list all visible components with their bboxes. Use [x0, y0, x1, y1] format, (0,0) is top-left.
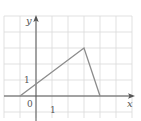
x-tick-label-1: 1: [50, 105, 56, 115]
graph-line: [20, 48, 100, 96]
coordinate-graph: y x 0 1 1: [0, 0, 141, 121]
x-axis: [4, 93, 135, 98]
y-tick-label-1: 1: [24, 75, 30, 85]
x-axis-label: x: [127, 98, 133, 109]
y-axis-label: y: [25, 15, 32, 26]
origin-label: 0: [27, 99, 33, 109]
grid-lines: [4, 16, 132, 118]
y-axis: [33, 15, 38, 121]
